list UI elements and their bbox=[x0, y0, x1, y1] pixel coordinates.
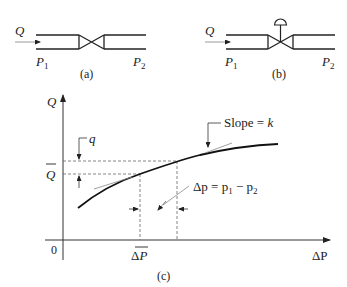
caption-a: (a) bbox=[80, 67, 93, 81]
dpbar-label: ΔP bbox=[131, 248, 147, 263]
flow-curve bbox=[78, 144, 278, 208]
valve-icon bbox=[79, 35, 104, 49]
origin-label: 0 bbox=[51, 243, 57, 257]
figure-a-valve bbox=[15, 35, 146, 49]
tangent-line-low bbox=[94, 177, 132, 189]
inlet-pressure-b: P1 bbox=[224, 54, 237, 71]
guide-lines bbox=[63, 161, 177, 240]
dp-equation: Δp = p1 − p2 bbox=[193, 179, 258, 196]
y-axis-label: Q bbox=[47, 94, 57, 109]
figure-c-chart bbox=[45, 95, 330, 260]
q-arrow-down-icon bbox=[79, 138, 87, 159]
diagram-canvas: Q P1 P2 (a) Q P1 P2 (b) Q q Q 0 ΔP ΔP Sl… bbox=[0, 0, 347, 287]
outlet-pressure-a: P2 bbox=[132, 54, 145, 71]
x-axis-label: ΔP bbox=[312, 248, 328, 263]
dp-leader-icon bbox=[158, 186, 189, 210]
outlet-pressure-b: P2 bbox=[321, 54, 334, 71]
actuator-icon bbox=[275, 19, 287, 25]
flow-label-b: Q bbox=[205, 23, 215, 38]
qbar-label: Q bbox=[46, 167, 56, 182]
figure-b-control-valve bbox=[205, 19, 335, 49]
q-label: q bbox=[89, 131, 96, 146]
slope-leader-icon bbox=[208, 123, 221, 147]
slope-label: Slope = k bbox=[224, 115, 273, 130]
flow-label-a: Q bbox=[15, 23, 25, 38]
inlet-pressure-a: P1 bbox=[35, 54, 48, 71]
caption-c: (c) bbox=[157, 269, 170, 283]
caption-b: (b) bbox=[272, 67, 286, 81]
